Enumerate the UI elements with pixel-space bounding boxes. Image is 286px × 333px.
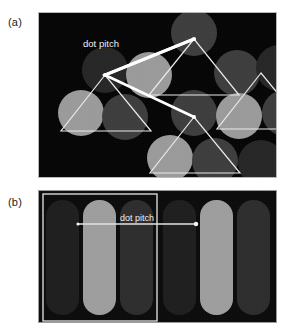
phosphor-dot (256, 45, 276, 91)
panel-a-dot-triad: dot pitch (38, 12, 277, 178)
figure-root: (a) (0, 0, 286, 333)
phosphor-dot (216, 93, 262, 139)
phosphor-dot (102, 94, 148, 140)
panel-b-dot-pitch-caption: dot pitch (120, 213, 154, 223)
phosphor-dot (58, 90, 104, 136)
phosphor-dot (171, 90, 217, 136)
panel-b-stripe-grille: dot pitch (38, 190, 277, 323)
dot-pitch-endpoint-marker (192, 37, 196, 41)
phosphor-stripe (163, 200, 196, 315)
dot-pitch-tail-marker (192, 115, 196, 119)
phosphor-stripe (237, 200, 270, 315)
panel-a-label: (a) (8, 16, 22, 28)
phosphor-dot (238, 140, 276, 177)
panel-b-canvas: dot pitch (39, 191, 276, 322)
dot-pitch-start-marker (76, 222, 79, 225)
phosphor-stripe (200, 200, 233, 315)
panel-a-dot-pitch-caption: dot pitch (83, 38, 119, 49)
panel-a-canvas: dot pitch (39, 13, 276, 177)
dot-pitch-start-marker (103, 73, 107, 77)
phosphor-stripe-group (46, 200, 270, 315)
panel-b-label: (b) (8, 196, 22, 208)
phosphor-dot (147, 135, 193, 177)
dot-pitch-endpoint-marker (194, 222, 198, 226)
phosphor-dot (192, 138, 238, 177)
phosphor-stripe (83, 200, 116, 315)
phosphor-stripe (46, 200, 79, 315)
phosphor-dot (171, 13, 217, 56)
